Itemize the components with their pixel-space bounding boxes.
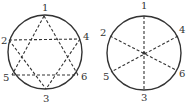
point-label-2: 2 [100, 27, 106, 38]
hexagram-circle: 124563 [1, 2, 89, 103]
dashed-segment-4-3 [46, 39, 80, 89]
point-label-3: 3 [43, 93, 49, 103]
point-label-4: 4 [83, 31, 89, 42]
dashed-segment-2-4 [9, 39, 80, 40]
point-label-3: 3 [141, 92, 147, 103]
point-label-1: 1 [141, 0, 147, 11]
dashed-segment-1-6 [44, 16, 78, 75]
diagram-canvas: 124563124563 [0, 0, 187, 103]
point-label-4: 4 [179, 24, 185, 35]
diameters-circle: 124563 [100, 0, 185, 103]
point-label-1: 1 [42, 2, 48, 13]
point-label-5: 5 [103, 71, 109, 82]
center-dot [142, 51, 145, 54]
point-label-5: 5 [3, 72, 9, 83]
dashed-segment-1-5 [12, 16, 44, 75]
point-label-2: 2 [1, 35, 7, 46]
point-label-6: 6 [179, 68, 185, 79]
point-label-6: 6 [81, 71, 87, 82]
